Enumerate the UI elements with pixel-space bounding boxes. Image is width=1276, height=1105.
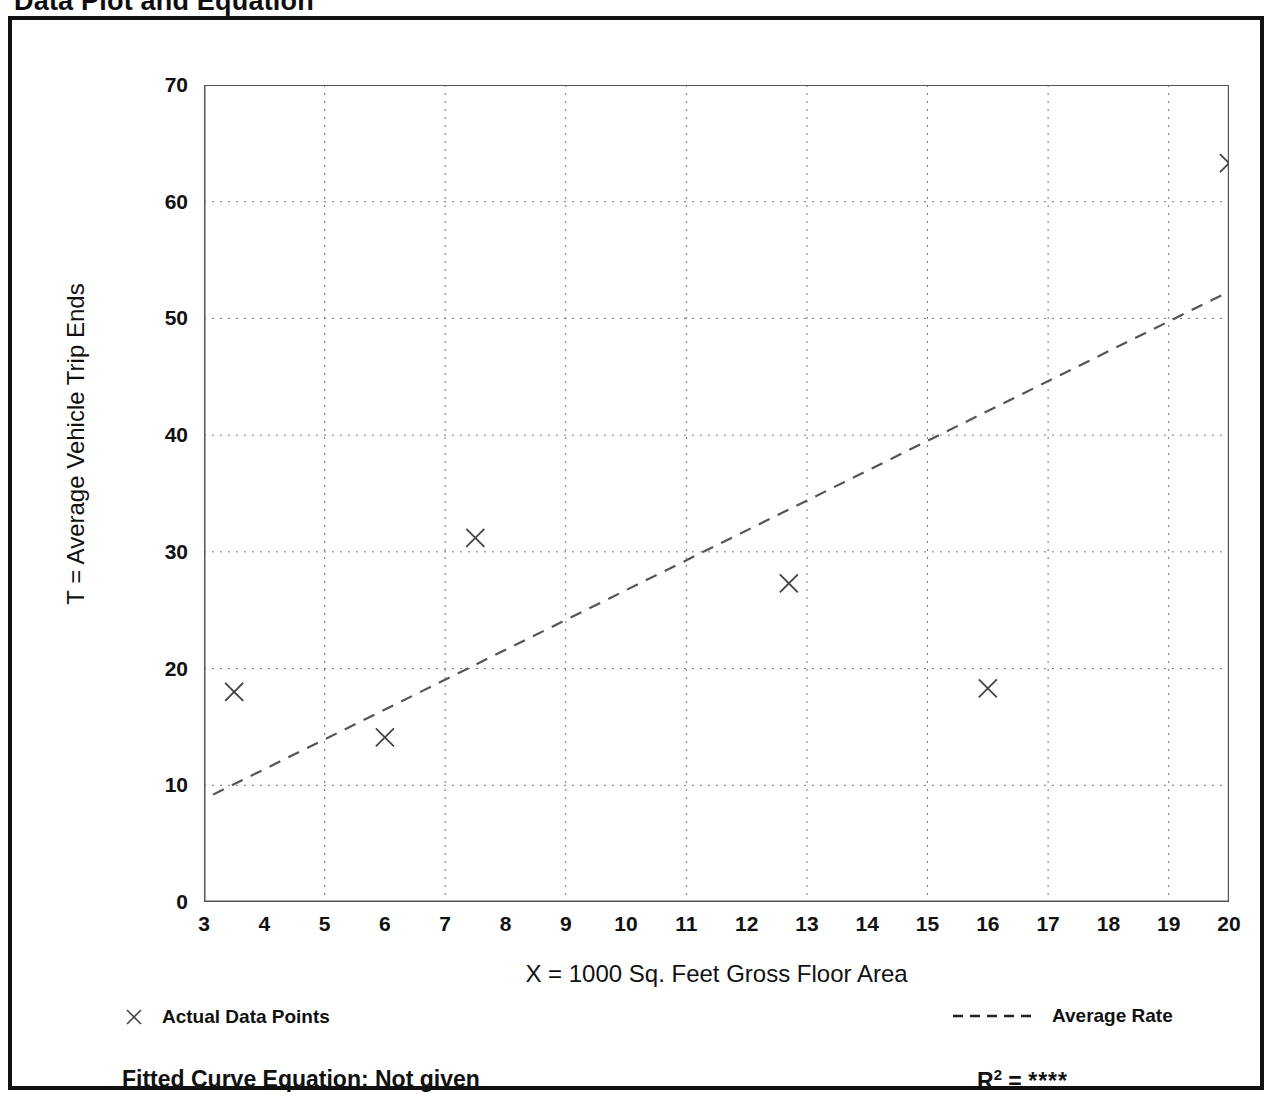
y-tick-label: 20 bbox=[165, 657, 188, 681]
data-point-marker bbox=[466, 529, 484, 547]
r-squared-exponent: 2 bbox=[994, 1066, 1002, 1083]
r-squared-value: **** bbox=[1028, 1068, 1068, 1094]
x-tick-label: 20 bbox=[1217, 912, 1240, 936]
r-squared-equals: = bbox=[1002, 1068, 1028, 1094]
average-rate-trend-line bbox=[213, 292, 1229, 795]
y-tick-label: 30 bbox=[165, 540, 188, 564]
x-tick-label: 19 bbox=[1157, 912, 1180, 936]
y-tick-label: 70 bbox=[165, 73, 188, 97]
page-title: Data Plot and Equation bbox=[14, 0, 314, 17]
x-tick-label: 14 bbox=[856, 912, 879, 936]
y-axis-tick-labels: 010203040506070 bbox=[142, 85, 188, 902]
grid-lines bbox=[204, 85, 1229, 902]
y-tick-label: 50 bbox=[165, 306, 188, 330]
y-tick-label: 60 bbox=[165, 190, 188, 214]
y-tick-label: 0 bbox=[176, 890, 188, 914]
x-marker-icon bbox=[122, 1005, 146, 1029]
x-tick-label: 7 bbox=[439, 912, 451, 936]
dashed-line-icon bbox=[952, 1009, 1036, 1023]
x-tick-label: 10 bbox=[614, 912, 637, 936]
x-tick-label: 5 bbox=[319, 912, 331, 936]
x-tick-label: 12 bbox=[735, 912, 758, 936]
data-point-marker bbox=[376, 728, 394, 746]
x-tick-label: 11 bbox=[675, 912, 697, 936]
data-point-marker bbox=[979, 679, 997, 697]
plot-svg bbox=[204, 85, 1229, 902]
legend-label-actual-data-points: Actual Data Points bbox=[162, 1006, 330, 1028]
x-tick-label: 9 bbox=[560, 912, 572, 936]
plot-area bbox=[204, 85, 1229, 902]
legend-entry-actual-data-points: Actual Data Points bbox=[122, 1005, 330, 1029]
data-point-marker bbox=[225, 683, 243, 701]
x-tick-label: 6 bbox=[379, 912, 391, 936]
axis-lines bbox=[204, 85, 1229, 902]
footer-row: Fitted Curve Equation: Not given R2 = **… bbox=[112, 1066, 1202, 1105]
x-tick-label: 4 bbox=[258, 912, 270, 936]
r-squared-block: R2 = **** bbox=[977, 1066, 1068, 1095]
x-tick-label: 13 bbox=[795, 912, 818, 936]
data-point-marker bbox=[1220, 154, 1229, 172]
y-tick-label: 10 bbox=[165, 773, 188, 797]
x-tick-label: 3 bbox=[198, 912, 210, 936]
x-tick-label: 15 bbox=[916, 912, 939, 936]
legend-label-average-rate: Average Rate bbox=[1052, 1005, 1173, 1027]
x-tick-label: 8 bbox=[500, 912, 512, 936]
data-point-marker bbox=[780, 574, 798, 592]
data-point-markers bbox=[225, 154, 1229, 746]
chart-legend: Actual Data Points Average Rate bbox=[112, 1005, 1202, 1041]
legend-entry-average-rate: Average Rate bbox=[952, 1005, 1173, 1027]
r-squared-label: R bbox=[977, 1068, 994, 1094]
y-axis-title: T = Average Vehicle Trip Ends bbox=[62, 144, 90, 744]
x-tick-label: 16 bbox=[976, 912, 999, 936]
x-axis-title: X = 1000 Sq. Feet Gross Floor Area bbox=[204, 960, 1229, 988]
x-tick-label: 18 bbox=[1097, 912, 1120, 936]
chart-frame: 010203040506070 345678910111213141516171… bbox=[8, 16, 1264, 1090]
x-axis-tick-labels: 34567891011121314151617181920 bbox=[204, 912, 1229, 942]
fitted-curve-equation: Fitted Curve Equation: Not given bbox=[122, 1066, 480, 1093]
x-tick-label: 17 bbox=[1036, 912, 1059, 936]
axis-tick-marks bbox=[204, 85, 1229, 902]
y-tick-label: 40 bbox=[165, 423, 188, 447]
